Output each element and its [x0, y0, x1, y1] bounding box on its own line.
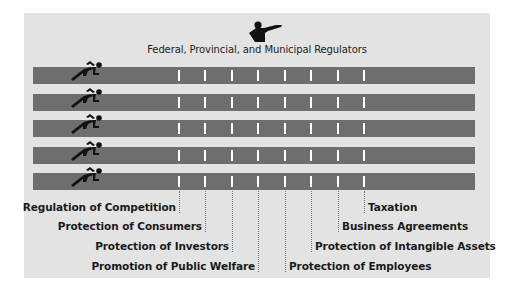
hurdle [257, 123, 259, 134]
hurdle [257, 176, 259, 187]
hurdle [231, 176, 233, 187]
hurdle [310, 176, 312, 187]
hurdle [310, 150, 312, 161]
hurdle [363, 176, 365, 187]
regulators-title: Federal, Provincial, and Municipal Regul… [24, 44, 490, 55]
hurdle-label: Protection of Investors [95, 240, 229, 252]
hurdle [257, 97, 259, 108]
hurdle [363, 150, 365, 161]
hurdle [178, 150, 180, 161]
hurdle [284, 150, 286, 161]
hurdle [337, 150, 339, 161]
hurdle-guide-line [285, 191, 286, 272]
hurdle [204, 97, 206, 108]
runner-icon [70, 87, 104, 113]
hurdle [257, 70, 259, 81]
hurdle-guide-line [338, 191, 339, 232]
hurdle [178, 70, 180, 81]
hurdle [204, 150, 206, 161]
hurdle [178, 123, 180, 134]
hurdle [337, 123, 339, 134]
hurdle-label: Protection of Intangible Assets [315, 240, 496, 252]
hurdle [363, 123, 365, 134]
hurdle [231, 150, 233, 161]
hurdle [284, 70, 286, 81]
hurdle-guide-line [179, 191, 180, 213]
hurdle-guide-line [311, 191, 312, 252]
hurdle [204, 176, 206, 187]
hurdle [310, 97, 312, 108]
hurdle [310, 70, 312, 81]
hurdle [363, 97, 365, 108]
hurdle-guide-line [205, 191, 206, 232]
hurdle-guide-line [364, 191, 365, 213]
hurdle [337, 176, 339, 187]
runner-icon [70, 113, 104, 139]
hurdle [204, 70, 206, 81]
hurdle [231, 70, 233, 81]
hurdle [204, 123, 206, 134]
hurdle [337, 97, 339, 108]
hurdle-label: Protection of Consumers [58, 220, 202, 232]
hurdle-label: Business Agreements [342, 220, 468, 232]
hurdle [337, 70, 339, 81]
hurdle [231, 97, 233, 108]
hurdle [284, 123, 286, 134]
hurdle [231, 123, 233, 134]
runner-icon [70, 166, 104, 192]
hurdle-guide-line [258, 191, 259, 272]
hurdle [363, 70, 365, 81]
runner-icon [70, 140, 104, 166]
hurdle-guide-line [232, 191, 233, 252]
hurdle-label: Regulation of Competition [23, 201, 176, 213]
hurdle [178, 176, 180, 187]
pointing-official-icon [246, 21, 284, 43]
hurdle-label: Taxation [368, 201, 417, 213]
hurdle [257, 150, 259, 161]
hurdle [310, 123, 312, 134]
hurdle-label: Promotion of Public Welfare [91, 260, 255, 272]
runner-icon [70, 60, 104, 86]
hurdle [178, 97, 180, 108]
hurdle [284, 97, 286, 108]
hurdle [284, 176, 286, 187]
hurdle-label: Protection of Employees [289, 260, 431, 272]
